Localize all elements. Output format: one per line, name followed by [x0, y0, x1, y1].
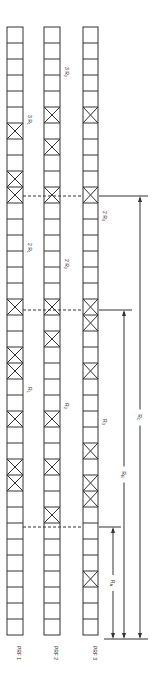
- marked-cell-x-icon: [7, 363, 23, 379]
- arrow-up-icon: [122, 310, 126, 316]
- column-prf3: 2 R3R3: [83, 27, 108, 635]
- marked-cell-x-icon: [44, 459, 60, 475]
- marked-cell-x-icon: [83, 315, 98, 331]
- marked-cell-x-icon: [7, 123, 23, 139]
- marked-cell-x-icon: [83, 107, 98, 123]
- column-prf1: 3 R12 R1R1: [7, 27, 33, 635]
- interval-label: R1: [26, 387, 34, 394]
- column-prf2: 3 R22 R2R2: [44, 27, 70, 635]
- interval-label: 2 R1: [26, 243, 34, 254]
- arrow-down-icon: [122, 633, 126, 639]
- interval-label: 2 R2: [63, 259, 71, 270]
- interval-label: R3: [101, 419, 109, 426]
- arrow-down-icon: [111, 633, 115, 639]
- marked-cell-x-icon: [83, 475, 98, 491]
- marked-cell-x-icon: [7, 411, 23, 427]
- marked-cell-x-icon: [83, 363, 98, 379]
- dimension-label: RC: [136, 414, 144, 421]
- interval-label: 3 R2: [63, 67, 71, 78]
- marked-cell-x-icon: [7, 347, 23, 363]
- marked-cell-x-icon: [44, 187, 60, 203]
- marked-cell-x-icon: [44, 507, 60, 523]
- column-label: PRF 3: [92, 646, 98, 660]
- interval-label: 3 R1: [26, 115, 34, 126]
- marked-cell-x-icon: [44, 331, 60, 347]
- dimension-rb: RB: [99, 310, 132, 639]
- dimension-label: RA: [109, 580, 117, 587]
- marked-cell-x-icon: [7, 459, 23, 475]
- marked-cell-x-icon: [7, 299, 23, 315]
- marked-cell-x-icon: [83, 491, 98, 507]
- marked-cell-x-icon: [83, 299, 98, 315]
- diagram-canvas: 3 R12 R1R1PRF 13 R22 R2R2PRF 22 R3R3PRF …: [0, 0, 156, 694]
- arrow-up-icon: [138, 196, 142, 202]
- marked-cell-x-icon: [44, 299, 60, 315]
- marked-cell-x-icon: [44, 139, 60, 155]
- marked-cell-x-icon: [7, 187, 23, 203]
- marked-cell-x-icon: [83, 571, 98, 587]
- marked-cell-x-icon: [83, 443, 98, 459]
- marked-cell-x-icon: [83, 187, 98, 203]
- marked-cell-x-icon: [7, 475, 23, 491]
- interval-label: 2 R3: [101, 211, 109, 222]
- column-label: PRF 1: [16, 646, 22, 660]
- arrow-down-icon: [138, 633, 142, 639]
- marked-cell-x-icon: [44, 107, 60, 123]
- dimension-label: RB: [120, 471, 128, 478]
- column-label: PRF 2: [53, 646, 59, 660]
- marked-cell-x-icon: [7, 171, 23, 187]
- arrow-up-icon: [111, 527, 115, 533]
- dimension-ra: RA: [99, 527, 121, 639]
- prf-diagram: 3 R12 R1R1PRF 13 R22 R2R2PRF 22 R3R3PRF …: [0, 0, 156, 694]
- interval-label: R2: [63, 403, 71, 410]
- marked-cell-x-icon: [44, 411, 60, 427]
